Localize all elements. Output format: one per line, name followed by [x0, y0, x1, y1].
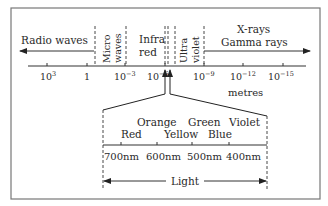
label-red-color: Red [121, 128, 142, 140]
label-red: red [139, 46, 157, 58]
svg-text:10−15: 10−15 [268, 70, 294, 82]
svg-text:10−12: 10−12 [230, 70, 256, 82]
label-infra: Infra [139, 33, 165, 45]
label-ultra: Ultra [178, 38, 189, 63]
electromagnetic-spectrum-diagram: Radio waves Micro waves Infra red Ultra … [0, 0, 328, 206]
label-blue: Blue [208, 128, 232, 140]
label-radio-waves: Radio waves [21, 34, 88, 46]
label-700nm: 700nm [104, 151, 140, 162]
svg-text:10−3: 10−3 [114, 70, 136, 82]
label-600nm: 600nm [146, 151, 182, 162]
tick-labels: 103 1 10−3 10−6 10−9 10−12 10−15 [40, 70, 294, 82]
label-violet-color: Violet [228, 116, 261, 128]
label-gamma-rays: Gamma rays [221, 36, 288, 48]
label-green: Green [188, 116, 221, 128]
label-violet: violet [190, 36, 201, 64]
label-light: Light [171, 175, 200, 187]
label-orange: Orange [137, 116, 177, 128]
svg-text:10−9: 10−9 [193, 70, 215, 82]
label-400nm: 400nm [226, 151, 262, 162]
label-500nm: 500nm [187, 151, 223, 162]
label-yellow: Yellow [163, 128, 198, 140]
svg-text:1: 1 [84, 71, 90, 82]
unit-label: metres [228, 87, 263, 98]
label-waves: waves [112, 33, 123, 63]
svg-text:103: 103 [40, 70, 56, 82]
label-x-rays: X-rays [237, 23, 270, 35]
label-micro: Micro [101, 34, 112, 63]
